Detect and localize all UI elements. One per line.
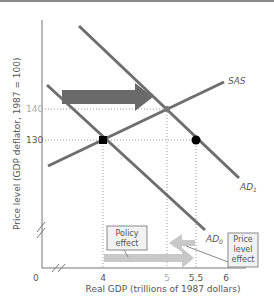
y-tick-130: 130 [26,135,43,145]
sas-label: SAS [228,76,246,86]
x-axis-label: Real GDP (trillions of 1987 dollars) [86,284,241,294]
x-tick-4: 4 [100,273,106,283]
y-axis-label: Price level (GDP deflator, 1987 = 100) [12,57,22,230]
ad0-label: AD0 [205,234,223,245]
x-tick-5-5: 5.5 [189,273,203,283]
price-level-effect-text-1: Price [233,235,253,244]
ad-as-chart: Price level (GDP deflator, 1987 = 100) R… [0,0,274,302]
x-tick-5: 5 [164,273,170,283]
price-level-effect-arrow-icon [169,234,195,252]
y-tick-140: 140 [26,104,43,114]
price-level-effect-pointer [186,246,228,262]
policy-effect-text-2: effect [116,239,139,248]
x-tick-6: 6 [223,273,229,283]
policy-effect-text-1: Policy [115,229,138,238]
ad0-curve [47,85,205,230]
ad1-label: AD1 [239,182,257,193]
policy-effect-arrow-icon [104,248,194,268]
price-level-effect-text-2: level [233,245,252,254]
x-tick-0: 0 [33,273,39,283]
y-axis-break-icon [37,222,45,238]
demand-shift-arrow-icon [62,83,153,111]
policy-target-point [192,136,201,145]
price-level-effect-text-3: effect [232,255,255,264]
new-equilibrium-point [164,106,170,112]
initial-equilibrium-point [99,136,107,144]
